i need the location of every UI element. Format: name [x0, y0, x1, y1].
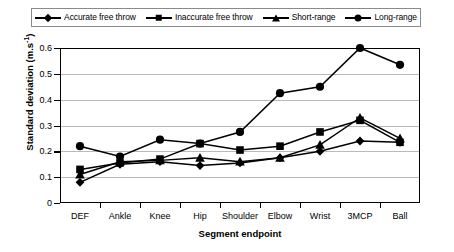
gridline — [61, 151, 419, 152]
x-axis-tick-mark — [220, 203, 221, 208]
y-axis-tick-mark — [54, 100, 60, 101]
x-axis-tick-label: Wrist — [310, 211, 330, 221]
x-axis-tick-label: Shoulder — [222, 211, 258, 221]
x-axis-tick-label: DEF — [71, 211, 89, 221]
x-axis-tick-label: 3MCP — [347, 211, 372, 221]
gridline — [61, 177, 419, 178]
y-axis-tick-label: 0.3 — [26, 121, 52, 130]
y-axis-tick-label: 0 — [26, 199, 52, 208]
x-axis-tick-mark — [180, 203, 181, 208]
chart-figure: Accurate free throw Inaccurate free thro… — [0, 0, 454, 252]
y-axis-tick-mark — [54, 203, 60, 204]
x-axis-title: Segment endpoint — [60, 228, 420, 239]
plot-area — [60, 48, 420, 203]
y-axis-tick-mark — [54, 126, 60, 127]
y-axis-tick-mark — [54, 151, 60, 152]
gridline — [61, 126, 419, 127]
x-axis-tick-mark — [380, 203, 381, 208]
y-axis-tick-labels: 0.60.50.40.30.20.10 — [22, 48, 52, 203]
y-axis-tick-mark — [54, 74, 60, 75]
y-axis-tick-label: 0.1 — [26, 173, 52, 182]
y-axis-tick-label: 0.2 — [26, 147, 52, 156]
x-axis-tick-mark — [100, 203, 101, 208]
x-axis-tick-mark — [300, 203, 301, 208]
x-axis-tick-mark — [260, 203, 261, 208]
gridline — [61, 100, 419, 101]
y-axis-tick-mark — [54, 177, 60, 178]
y-axis-tick-mark — [54, 48, 60, 49]
chart-plot-wrapper: Standard deviation (m.s-1) 0.60.50.40.30… — [0, 0, 454, 252]
x-axis-tick-label: Knee — [149, 211, 170, 221]
y-axis-title-tail: ) — [24, 34, 35, 37]
x-axis-tick-mark — [340, 203, 341, 208]
x-axis-tick-label: Elbow — [268, 211, 293, 221]
y-axis-title-exponent: -1 — [23, 37, 30, 43]
y-axis-tick-label: 0.6 — [26, 44, 52, 53]
gridline — [61, 74, 419, 75]
y-axis-tick-label: 0.5 — [26, 69, 52, 78]
x-axis-tick-label: Ball — [392, 211, 407, 221]
x-axis-tick-label: Ankle — [109, 211, 132, 221]
x-axis-tick-label: Hip — [193, 211, 207, 221]
x-axis-tick-mark — [140, 203, 141, 208]
y-axis-tick-label: 0.4 — [26, 95, 52, 104]
